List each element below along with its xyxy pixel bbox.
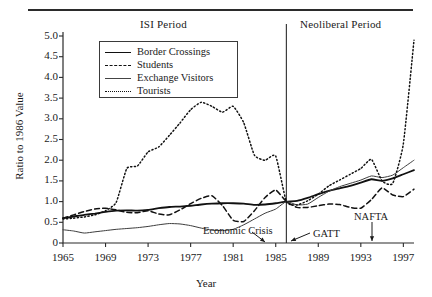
chart-figure: ISI Period Neoliberal Period Border Cros… [0, 0, 432, 297]
x-tick-label: 1997 [388, 251, 418, 263]
y-tick-label: 0.5 [18, 215, 58, 227]
x-tick-label: 1985 [261, 251, 291, 263]
x-axis-title: Year [196, 277, 216, 289]
legend-item-tourists: Tourists [105, 84, 232, 97]
y-tick-label: 4.5 [18, 49, 58, 61]
x-tick-label: 1965 [48, 251, 78, 263]
legend-swatch-dotted-line-icon [105, 85, 131, 97]
y-tick-label: 1.0 [18, 194, 58, 206]
legend-item-students: Students [105, 58, 232, 71]
legend-swatch-thin-line-icon [105, 72, 131, 84]
x-tick-label: 1989 [303, 251, 333, 263]
legend-swatch-dashed-line-icon [105, 59, 131, 71]
annotation-economic-crisis: Economic Crisis [203, 225, 273, 236]
legend-label: Exchange Visitors [137, 71, 213, 84]
chart-legend: Border Crossings Students Exchange Visit… [99, 41, 238, 98]
legend-label: Tourists [137, 84, 171, 97]
annotation-nafta: NAFTA [354, 211, 388, 222]
legend-item-border-crossings: Border Crossings [105, 45, 232, 58]
y-tick-label: 0 [18, 236, 58, 248]
y-axis-title: Ratio to 1986 Value [13, 81, 25, 191]
y-tick-label: 5.0 [18, 29, 58, 41]
arrow-nafta [370, 222, 374, 241]
arrow-gatt [291, 233, 310, 241]
legend-label: Students [137, 58, 173, 71]
x-tick-label: 1973 [133, 251, 163, 263]
x-tick-label: 1993 [346, 251, 376, 263]
x-tick-label: 1981 [218, 251, 248, 263]
x-tick-label: 1977 [176, 251, 206, 263]
annotation-gatt: GATT [313, 228, 340, 239]
legend-label: Border Crossings [137, 45, 210, 58]
legend-swatch-solid-line-icon [105, 46, 131, 58]
legend-item-exchange-visitors: Exchange Visitors [105, 71, 232, 84]
x-tick-label: 1969 [91, 251, 121, 263]
